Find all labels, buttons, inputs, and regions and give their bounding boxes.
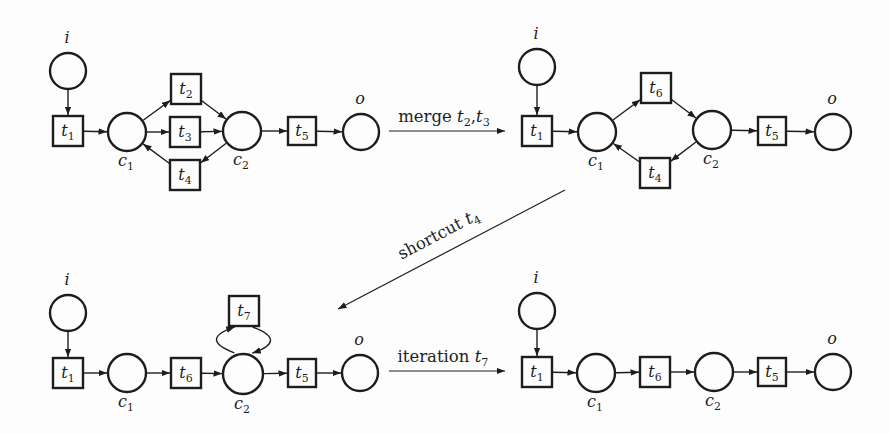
place-circle	[108, 113, 146, 151]
net-after-merge: it1c1t6t4c2t5o	[519, 24, 851, 188]
transition-t1: t1	[522, 357, 552, 387]
place-c1: c1	[578, 113, 616, 173]
place-i: i	[519, 24, 555, 85]
arc-c1-t2	[143, 101, 170, 121]
place-circle	[815, 354, 851, 390]
arc-c2-t4	[671, 142, 696, 161]
place-label-o: o	[355, 89, 365, 108]
place-label-c1: c1	[118, 151, 134, 173]
place-c2: c2	[693, 111, 731, 171]
figure-canvas: it1c1t2t3t4c2t5oit1c1t6t4c2t5oit1c1t6t7c…	[0, 0, 890, 433]
place-label-i: i	[64, 270, 69, 289]
place-label-c2: c2	[705, 391, 721, 413]
place-o: o	[343, 89, 379, 150]
place-label-c1: c1	[587, 392, 603, 414]
place-circle	[343, 114, 379, 150]
transform-label-merge: merge t2,t3	[398, 107, 490, 129]
transition-t5: t5	[758, 117, 786, 145]
transition-t6: t6	[171, 358, 201, 388]
place-c1: c1	[577, 354, 615, 414]
net-after-iteration: it1c1t6c2t5o	[519, 268, 851, 414]
transform-iteration: iteration t7	[389, 347, 505, 371]
transition-t3: t3	[170, 117, 200, 147]
place-c1: c1	[108, 354, 146, 414]
place-circle	[223, 112, 261, 150]
place-circle	[578, 113, 616, 151]
transition-t1: t1	[522, 116, 552, 146]
place-i: i	[519, 268, 555, 329]
place-circle	[693, 111, 731, 149]
place-o: o	[342, 330, 378, 391]
place-circle	[519, 49, 555, 85]
transition-t1: t1	[53, 358, 83, 388]
transition-t4: t4	[170, 160, 200, 190]
place-circle	[50, 295, 86, 331]
transform-merge: merge t2,t3	[389, 107, 505, 131]
arc-t6-c2	[672, 100, 696, 118]
place-c2: c2	[223, 354, 263, 416]
place-label-c1: c1	[588, 151, 604, 173]
place-label-c2: c2	[233, 150, 249, 172]
net-original: it1c1t2t3t4c2t5o	[50, 28, 379, 190]
place-circle	[695, 353, 733, 391]
arc-t4-c1	[613, 144, 639, 162]
place-label-o: o	[827, 329, 837, 348]
place-label-c1: c1	[118, 392, 134, 414]
transition-t7: t7	[229, 296, 259, 326]
petri-net-transformation-figure: it1c1t2t3t4c2t5oit1c1t6t4c2t5oit1c1t6t7c…	[0, 0, 890, 433]
transition-t5: t5	[758, 358, 786, 386]
place-c1: c1	[108, 113, 146, 173]
place-o: o	[815, 89, 851, 150]
place-label-i: i	[64, 28, 69, 47]
transform-shortcut: shortcut t4	[338, 190, 565, 309]
transition-t6: t6	[640, 357, 670, 387]
place-i: i	[50, 28, 86, 89]
arc-t2-c2	[202, 101, 226, 119]
transform-label-iteration: iteration t7	[398, 347, 489, 369]
transition-t6: t6	[641, 73, 671, 103]
arc-c2-t4	[201, 143, 226, 163]
place-label-c2: c2	[703, 149, 719, 171]
transition-t5: t5	[288, 117, 316, 145]
transition-t2: t2	[171, 74, 201, 104]
arc-t4-c1	[143, 144, 169, 163]
arc-c2-t7	[216, 327, 234, 353]
place-circle	[50, 53, 86, 89]
place-label-i: i	[533, 268, 538, 287]
place-label-o: o	[354, 330, 364, 349]
place-circle	[342, 355, 378, 391]
place-c2: c2	[695, 353, 733, 413]
arc-c2-t5	[732, 130, 757, 131]
transform-label-shortcut: shortcut t4	[395, 205, 484, 266]
place-circle	[223, 354, 263, 394]
place-circle	[815, 114, 851, 150]
place-label-o: o	[827, 89, 837, 108]
place-i: i	[50, 270, 86, 331]
arc-t5-o	[787, 131, 814, 132]
net-after-shortcut: it1c1t6t7c2t5o	[50, 270, 378, 416]
place-circle	[108, 354, 146, 392]
arc-c1-t6	[613, 100, 640, 120]
arc-t7-c2	[252, 327, 270, 353]
place-label-c2: c2	[234, 394, 250, 416]
transition-t1: t1	[53, 116, 83, 146]
place-circle	[577, 354, 615, 392]
transition-t4: t4	[640, 158, 670, 188]
place-circle	[519, 293, 555, 329]
place-o: o	[815, 329, 851, 390]
transition-t5: t5	[288, 359, 316, 387]
place-c2: c2	[223, 112, 261, 172]
transform-arrow-shortcut	[338, 190, 565, 309]
place-label-i: i	[533, 24, 538, 43]
